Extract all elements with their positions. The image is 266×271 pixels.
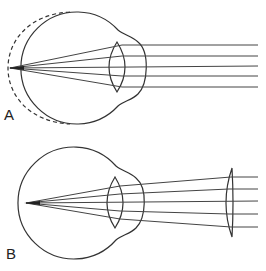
myopia-diagram [0, 0, 266, 271]
panel-label-a: A [4, 107, 14, 122]
panel-b [18, 147, 258, 259]
panel-label-b: B [6, 246, 16, 261]
light-rays-a [10, 45, 258, 87]
panel-a [8, 12, 258, 124]
